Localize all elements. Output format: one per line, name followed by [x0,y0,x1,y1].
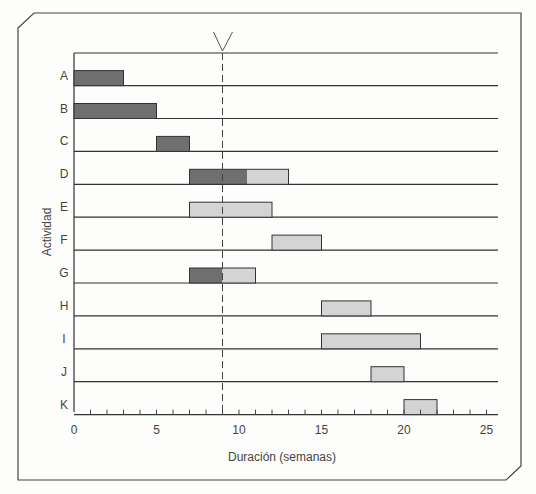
task-bar-e [190,202,273,217]
x-tick-label: 0 [71,423,78,437]
x-tick-label: 10 [232,423,246,437]
task-bar-a [74,71,124,86]
task-label: E [60,200,68,214]
task-label: A [60,69,68,83]
task-label: J [61,365,67,379]
x-tick-label: 15 [315,423,329,437]
y-axis-label: Actividad [40,208,54,257]
task-bar-d [190,169,289,184]
task-label: F [60,233,67,247]
task-bar-h [322,301,372,316]
x-tick-label: 20 [397,423,411,437]
task-bar-f [272,235,322,250]
task-label: I [62,332,65,346]
task-label: K [60,398,68,412]
x-tick-label: 25 [480,423,494,437]
task-label: B [60,102,68,116]
current-time-marker [214,32,233,415]
task-bars [74,71,437,415]
task-bar-j [371,367,404,382]
task-bar-c [157,136,190,151]
task-label: D [60,167,69,181]
gantt-chart: ABCDEFGHIJK 0510152025 Duración (semanas… [0,0,536,494]
task-label: H [60,299,69,313]
task-bar-b [74,104,157,119]
x-tick-label: 5 [153,423,160,437]
task-bar-i [322,334,421,349]
x-axis-label: Duración (semanas) [228,450,336,464]
task-label: G [59,266,68,280]
task-label: C [60,134,69,148]
